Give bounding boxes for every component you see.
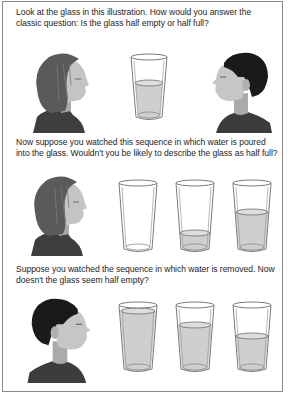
man-profile-illustration-2 <box>25 297 95 383</box>
woman-profile-illustration <box>27 51 95 133</box>
glass-half-full-2 <box>231 179 273 255</box>
paragraph-remove: Suppose you watched the sequence in whic… <box>16 264 278 285</box>
glass-empty <box>117 179 159 255</box>
paragraph-pour: Now suppose you watched this sequence in… <box>16 137 278 158</box>
glass-half-full <box>129 53 169 123</box>
man-profile-illustration <box>208 51 274 133</box>
woman-profile-illustration-2 <box>25 172 93 258</box>
glass-quarter-full <box>174 179 216 255</box>
glass-nearly-full <box>117 301 159 375</box>
paragraph-intro: Look at the glass in this illustration. … <box>16 7 278 28</box>
glass-three-quarter-full <box>174 301 216 375</box>
glass-half-full-3 <box>231 301 273 375</box>
